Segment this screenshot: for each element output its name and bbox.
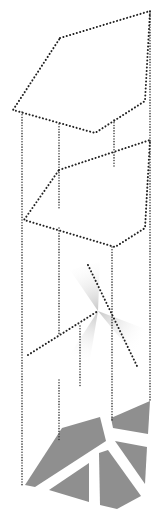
fragment-top-right bbox=[111, 401, 150, 434]
dotted-planes bbox=[13, 11, 150, 247]
light-fan-right bbox=[98, 311, 148, 360]
upper-plane bbox=[13, 11, 150, 133]
middle-plane bbox=[24, 140, 150, 247]
light-fan-upper bbox=[70, 262, 100, 311]
light-fans bbox=[60, 262, 148, 390]
ground-fragments bbox=[25, 401, 150, 509]
exploded-diagram bbox=[0, 0, 168, 527]
fragment-large-left bbox=[25, 417, 106, 487]
